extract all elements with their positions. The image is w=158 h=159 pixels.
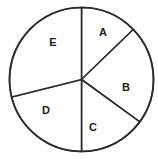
- pie-slice-label-a: A: [99, 27, 107, 38]
- pie-slice-label-c: C: [89, 122, 97, 133]
- pie-slice-label-d: D: [42, 105, 50, 116]
- pie-slice-label-e: E: [49, 37, 57, 48]
- pie-chart-svg: [0, 0, 158, 159]
- pie-chart-figure: ABCDE: [0, 0, 158, 159]
- pie-slice-label-b: B: [122, 82, 130, 93]
